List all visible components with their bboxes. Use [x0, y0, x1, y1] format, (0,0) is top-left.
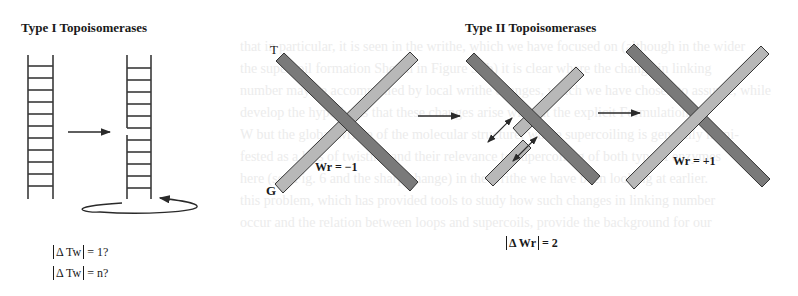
writhe-change-quantity: Δ Wr: [506, 236, 539, 250]
twist-change-value: = n?: [87, 266, 108, 280]
g-strand-broken-lower: [485, 140, 531, 186]
twist-change-quantity: Δ Tw: [53, 245, 84, 259]
dna-ladder-before: [28, 55, 53, 199]
type-1-title: Type I Topoisomerases: [21, 20, 147, 36]
g-strand-label: G: [266, 183, 276, 199]
twist-change-value: = 1?: [87, 245, 108, 259]
twist-change-equation-1: Δ Tw = 1?: [53, 245, 108, 260]
twist-change-quantity: Δ Tw: [53, 266, 84, 280]
writhe-after-label: Wr = +1: [673, 154, 716, 169]
writhe-before-label: Wr = −1: [315, 160, 358, 175]
dna-ladder-nicked: [127, 55, 151, 199]
topoisomerase-diagram: [0, 0, 798, 296]
writhe-change-value: = 2: [542, 236, 558, 250]
separation-arrow-upper: [488, 118, 512, 142]
writhe-change-equation: Δ Wr = 2: [506, 236, 558, 251]
rotation-arrow-icon: [82, 198, 197, 213]
t-strand-label: T: [270, 42, 278, 58]
twist-change-equation-2: Δ Tw = n?: [53, 266, 108, 281]
type-2-title: Type II Topoisomerases: [465, 20, 596, 36]
